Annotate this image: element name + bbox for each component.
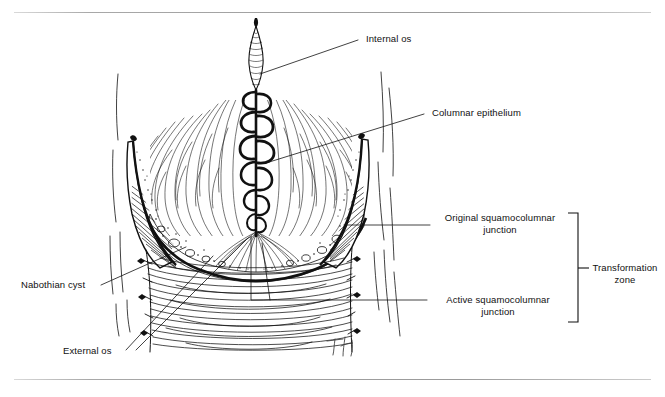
label-transformation-zone-line1: Transformation xyxy=(589,262,661,274)
label-active-scj-line2: junction xyxy=(432,306,564,318)
leader-internal-os xyxy=(260,40,358,74)
internal-os xyxy=(249,18,263,90)
label-original-scj-line1: Original squamocolumnar xyxy=(434,212,566,224)
right-cervical-wall xyxy=(318,133,369,271)
transformation-zone-bracket xyxy=(568,213,589,322)
label-columnar-epithelium: Columnar epithelium xyxy=(432,107,521,119)
plicae-palmatae xyxy=(240,90,274,236)
leader-external-os xyxy=(126,256,213,350)
label-original-scj-line2: junction xyxy=(434,224,566,236)
label-internal-os: Internal os xyxy=(366,33,411,45)
label-external-os: External os xyxy=(63,345,112,357)
figure-page: Internal os Columnar epithelium Original… xyxy=(0,0,665,397)
label-nabothian-cyst: Nabothian cyst xyxy=(21,279,85,291)
label-transformation-zone-line2: zone xyxy=(589,274,661,286)
leader-columnar-epithelium xyxy=(266,114,424,163)
label-active-scj-line1: Active squamocolumnar xyxy=(432,294,564,306)
cervix-illustration xyxy=(0,0,665,397)
